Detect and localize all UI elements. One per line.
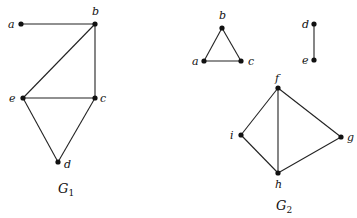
node-label-g2-a: a: [192, 55, 199, 68]
node-label-g1-e: e: [9, 92, 16, 105]
node-g1-e: [20, 95, 25, 100]
node-g2-b: [219, 25, 224, 30]
node-label-g1-a: a: [8, 18, 15, 31]
node-g2-f: [275, 85, 280, 90]
edge-g2-i-h: [241, 135, 278, 173]
node-label-g2-c: c: [248, 55, 254, 68]
edge-g2-f-i: [241, 88, 278, 135]
graph-title-g2: G2: [276, 198, 292, 215]
node-g2-e: [311, 57, 316, 62]
node-g2-d: [311, 21, 316, 26]
graph-title-g1: G1: [58, 181, 74, 198]
edge-g1-c-d: [58, 98, 95, 162]
node-label-g2-b: b: [219, 9, 226, 22]
node-label-g2-g: g: [347, 131, 354, 144]
node-g2-i: [238, 132, 243, 137]
node-label-g2-i: i: [230, 129, 234, 142]
node-label-g2-e: e: [302, 54, 309, 67]
node-g1-b: [92, 21, 97, 26]
edge-g1-e-d: [23, 98, 58, 162]
labels-layer: abecdG1bacdefighG2: [8, 5, 354, 215]
edge-g2-b-c: [222, 28, 241, 61]
node-label-g1-c: c: [100, 92, 106, 105]
node-g2-h: [275, 170, 280, 175]
node-g2-c: [238, 58, 243, 63]
node-label-g1-d: d: [64, 158, 71, 171]
node-label-g1-b: b: [92, 5, 99, 18]
node-g2-g: [338, 134, 343, 139]
node-g1-a: [18, 21, 23, 26]
node-g2-a: [201, 58, 206, 63]
edge-g1-b-e: [23, 24, 95, 98]
edge-g2-b-a: [204, 28, 222, 61]
node-g1-d: [55, 159, 60, 164]
node-label-g2-h: h: [275, 178, 282, 191]
graph-diagram: abecdG1bacdefighG2: [0, 0, 357, 218]
edge-g2-f-g: [278, 88, 341, 137]
node-g1-c: [92, 95, 97, 100]
node-label-g2-f: f: [274, 72, 281, 85]
edges-layer: [21, 24, 341, 173]
edge-g2-h-g: [278, 137, 341, 173]
node-label-g2-d: d: [302, 18, 309, 31]
